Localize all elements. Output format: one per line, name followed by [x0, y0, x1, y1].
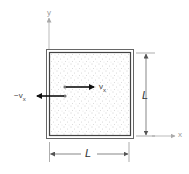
width-label: L: [85, 148, 91, 159]
gas-particles-fill: [50, 53, 131, 136]
vx-label-sub: x: [103, 87, 106, 93]
x-axis-label: x: [178, 131, 182, 139]
neg-vx-label: −vx: [14, 92, 26, 102]
height-label: L: [142, 90, 148, 101]
y-axis-label: y: [47, 9, 51, 17]
gas-box-diagram: [0, 0, 189, 174]
vx-label: vx: [99, 83, 106, 93]
neg-vx-label-sub: x: [23, 96, 26, 102]
